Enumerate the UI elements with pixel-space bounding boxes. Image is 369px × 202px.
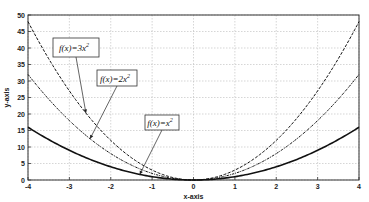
x-tick-label: -1 xyxy=(149,183,155,190)
y-tick-label: 35 xyxy=(17,61,25,68)
y-tick-label: 45 xyxy=(17,28,25,35)
y-tick-label: 0 xyxy=(21,177,25,184)
y-axis-label: y-axis xyxy=(3,87,11,107)
annotation-arrow xyxy=(140,130,162,174)
x-tick-label: -3 xyxy=(66,183,72,190)
x-axis-label: x-axis xyxy=(184,193,204,200)
x-tick-label: 0 xyxy=(192,183,196,190)
y-tick-label: 10 xyxy=(17,144,25,151)
annotation-arrow xyxy=(76,57,86,113)
chart: -4-3-2-10123405101520253035404550 f(x)=3… xyxy=(0,0,369,202)
x-tick-label: -2 xyxy=(108,183,114,190)
annotation-3: f(x)=x2 xyxy=(140,115,179,174)
x-tick-label: 4 xyxy=(357,183,361,190)
x-tick-label: 3 xyxy=(316,183,320,190)
x-tick-label: -4 xyxy=(25,183,31,190)
y-tick-label: 25 xyxy=(17,94,25,101)
annotation-label: f(x)=3x2 xyxy=(59,42,89,53)
annotation-label: f(x)=x2 xyxy=(147,117,173,128)
annotation-arrow xyxy=(90,86,117,139)
annotation-label: f(x)=2x2 xyxy=(100,73,130,84)
y-tick-label: 15 xyxy=(17,127,25,134)
x-tick-label: 1 xyxy=(233,183,237,190)
annotation-1: f(x)=3x2 xyxy=(53,38,99,113)
y-tick-label: 20 xyxy=(17,111,25,118)
y-tick-label: 30 xyxy=(17,78,25,85)
y-tick-label: 50 xyxy=(17,12,25,19)
y-tick-label: 5 xyxy=(21,160,25,167)
x-tick-label: 2 xyxy=(274,183,278,190)
y-tick-label: 40 xyxy=(17,45,25,52)
annotation-2: f(x)=2x2 xyxy=(90,70,137,139)
